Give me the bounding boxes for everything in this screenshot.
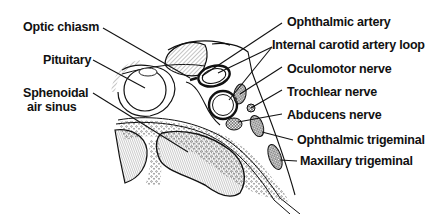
abducens-nerve-shape (226, 118, 242, 130)
label-trochlear-nerve: Trochlear nerve (287, 85, 377, 99)
label-optic-chiasm: Optic chiasm (23, 20, 99, 34)
label-internal-carotid-artery-loop: Internal carotid artery loop (272, 38, 425, 52)
ophthalmic-artery-stub (190, 78, 197, 80)
label-abducens-nerve: Abducens nerve (287, 108, 381, 122)
label-ophthalmic-trigeminal: Ophthalmic trigeminal (297, 133, 425, 147)
label-sphenoidal-air-sinus-line1: Sphenoidal (23, 86, 88, 100)
label-ophthalmic-artery: Ophthalmic artery (287, 15, 391, 29)
label-oculomotor-nerve: Oculomotor nerve (287, 62, 391, 76)
pituitary-shape (113, 62, 175, 116)
maxillary-trigeminal-shape (265, 143, 285, 172)
label-pituitary: Pituitary (43, 53, 91, 67)
label-maxillary-trigeminal: Maxillary trigeminal (300, 154, 413, 168)
label-sphenoidal-air-sinus-line2: air sinus (27, 100, 77, 114)
